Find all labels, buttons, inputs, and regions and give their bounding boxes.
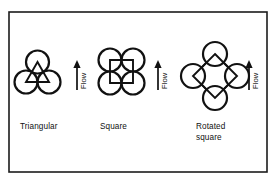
flow-arrow-head-icon (73, 60, 80, 68)
flow-marker-1: Flow (73, 60, 88, 90)
flow-label: Flow (79, 72, 88, 89)
pattern-label-rotated-square-line1: Rotated (196, 122, 226, 131)
flow-arrow-head-icon (154, 60, 161, 68)
pattern-triangular: Triangular (15, 51, 61, 132)
pattern-label-square: Square (100, 122, 127, 131)
pattern-rotated-square: Rotated square (181, 42, 249, 142)
tube-layout-diagram: Triangular Flow Square Flow (0, 0, 276, 185)
figure-container: Triangular Flow Square Flow (0, 0, 276, 185)
flow-marker-2: Flow (154, 60, 169, 90)
flow-label: Flow (160, 72, 169, 89)
flow-label: Flow (251, 72, 260, 89)
pattern-label-rotated-square-line2: square (196, 133, 222, 142)
pattern-label-triangular: Triangular (20, 122, 58, 131)
flow-arrow-head-icon (245, 60, 252, 68)
pattern-square: Square (99, 49, 145, 132)
